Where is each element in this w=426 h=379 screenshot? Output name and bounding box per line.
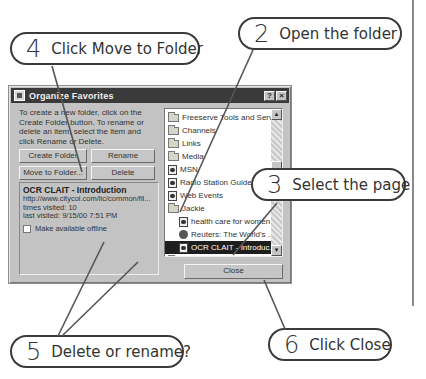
tree-item-label: OCR CLAIT - Introduc... [191,243,272,252]
tree-item[interactable]: health care for women [165,215,272,228]
make-offline-option[interactable]: Make available offline [23,225,155,234]
web-page-icon [179,243,188,253]
folder-icon [168,114,179,122]
callout-step-5: 5 Delete or rename? [10,335,184,368]
tree-item-label: Freeserve Tools and Servi... [182,113,272,122]
tree-item[interactable]: Media [165,150,272,163]
make-offline-label: Make available offline [35,225,107,234]
folder-icon [168,140,179,148]
create-folder-button[interactable]: Create Folder [19,149,87,163]
callout-step-2: 2 Open the folder [238,17,402,50]
page-margin-rule [412,0,414,306]
step-text: Select the page [292,176,410,194]
tree-item-label: Web Events [180,191,223,200]
step-number: 6 [284,331,299,359]
folder-icon [168,127,179,135]
item-url: http://www.citycol.com/lic/common/fil... [23,195,155,204]
make-offline-checkbox[interactable] [23,225,31,233]
tree-item[interactable]: Jackie [165,202,272,215]
folder-icon [168,257,179,258]
close-window-button[interactable]: × [276,91,287,101]
step-text: Click Move to Folder [51,40,203,58]
callout-step-4: 4 Click Move to Folder [10,32,200,65]
times-visited: times visited: 10 [23,204,155,213]
step-text: Open the folder [279,25,397,43]
tree-item[interactable]: OCR CLAIT - Introduc... [165,241,272,254]
web-page-icon [168,178,177,188]
last-visited: last visited: 9/15/00 7:51 PM [23,212,155,221]
tree-item-label: Media [182,152,204,161]
favorites-app-icon [14,90,25,101]
tree-item[interactable]: Links [165,137,272,150]
tree-item-label: MSN [180,165,198,174]
tree-item-label: Links [182,139,201,148]
open-folder-icon [168,205,179,213]
web-page-icon [168,165,177,175]
organize-favorites-dialog: Organize Favorites ? × To create a new f… [8,85,292,284]
web-page-icon [179,217,188,227]
step-number: 4 [26,35,41,63]
tree-item-label: William [182,256,208,257]
tree-item-label: health care for women [191,217,270,226]
rename-button[interactable]: Rename [91,149,155,163]
instructions-text: To create a new folder, click on the Cre… [19,108,155,146]
step-text: Delete or rename? [51,343,191,361]
title-bar[interactable]: Organize Favorites ? × [11,88,289,103]
tree-item-label: Radio Station Guide [180,178,252,187]
callout-step-3: 3 Select the page [251,168,406,201]
move-to-folder-button[interactable]: Move to Folder... [19,166,87,180]
tree-item[interactable]: Reuters: The World's ... [165,228,272,241]
tree-item-label: Channels [182,126,216,135]
tree-item-label: Reuters: The World's ... [191,230,272,239]
callout-step-6: 6 Click Close [268,328,392,361]
folder-icon [168,153,179,161]
globe-icon [179,230,188,239]
item-title: OCR CLAIT - Introduction [23,185,155,195]
scroll-down-arrow-icon[interactable]: ▼ [271,245,282,256]
help-button[interactable]: ? [264,91,275,101]
close-button[interactable]: Close [184,264,283,279]
scroll-up-arrow-icon[interactable]: ▲ [271,109,282,120]
step-number: 5 [26,338,41,366]
step-number: 3 [267,171,282,199]
web-page-icon [168,191,177,201]
tree-item[interactable]: Freeserve Tools and Servi... [165,111,272,124]
item-info-panel: OCR CLAIT - Introduction http://www.city… [19,182,159,275]
delete-button[interactable]: Delete [91,166,155,180]
step-text: Click Close [309,336,390,354]
tree-item[interactable]: William [165,254,272,257]
tree-item-label: Jackie [182,204,205,213]
step-number: 2 [254,20,269,48]
dialog-title: Organize Favorites [29,91,114,101]
tree-item[interactable]: Channels [165,124,272,137]
